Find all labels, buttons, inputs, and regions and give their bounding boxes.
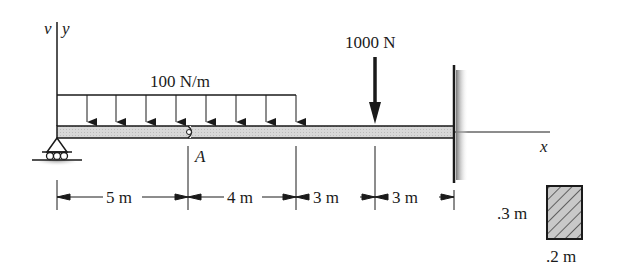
dimension-label-1: 5 m xyxy=(106,188,132,207)
roller-support-icon xyxy=(32,138,82,171)
beam xyxy=(57,126,454,138)
y-axis-label: y xyxy=(60,19,70,38)
distributed-load-arrows xyxy=(87,95,296,122)
distributed-load xyxy=(57,95,296,122)
fixed-wall-support xyxy=(454,65,468,183)
x-axis-label: x xyxy=(539,137,548,156)
hinge-label-a: A xyxy=(194,147,206,166)
dimension-label-4: 3 m xyxy=(392,188,418,207)
point-load-arrow xyxy=(369,57,381,124)
beam-diagram: v y 100 N/m 1000 N A x xyxy=(0,0,621,273)
dimension-label-3: 3 m xyxy=(313,188,339,207)
cross-section-height-label: .3 m xyxy=(497,204,527,223)
v-axis-label: v xyxy=(44,19,52,38)
cross-section-width-label: .2 m xyxy=(546,247,576,266)
cross-section xyxy=(547,186,582,239)
dimension-label-2: 4 m xyxy=(227,188,253,207)
distributed-load-label: 100 N/m xyxy=(150,72,210,91)
point-load-label: 1000 N xyxy=(345,33,396,52)
